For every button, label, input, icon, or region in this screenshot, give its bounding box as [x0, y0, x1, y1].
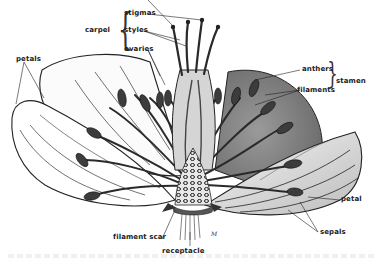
label-ovaries: ovaries: [124, 46, 154, 53]
label-stigmas: stigmas: [124, 10, 156, 17]
svg-text:M: M: [210, 230, 218, 237]
label-filament-scar: filament scar: [113, 234, 166, 241]
label-filaments: filaments: [297, 87, 335, 94]
label-petals: petals: [16, 56, 41, 63]
flower-diagram: M { } stigmas styles ovaries carpel peta…: [0, 0, 383, 263]
label-styles: styles: [124, 27, 148, 34]
label-carpel: carpel: [85, 27, 110, 34]
flower-illustration: M: [0, 0, 383, 263]
label-stamen: stamen: [336, 78, 366, 85]
label-petal: petal: [341, 196, 362, 203]
faded-caption-line: [8, 254, 375, 258]
label-anthers: anthers: [302, 66, 333, 73]
label-sepals: sepals: [320, 229, 346, 236]
carpels: [171, 18, 220, 170]
